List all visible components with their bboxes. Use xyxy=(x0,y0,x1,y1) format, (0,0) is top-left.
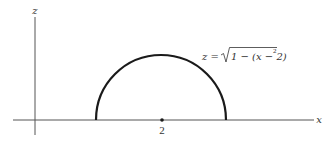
equation-exponent: 2 xyxy=(273,47,277,55)
semicircle-curve xyxy=(96,55,226,120)
semicircle-diagram: 2 x z z = 1 − (x − 2) 2 xyxy=(0,0,331,143)
equation-label: z = 1 − (x − 2) 2 xyxy=(201,47,287,62)
center-point-marker xyxy=(160,118,164,122)
equation-lhs: z = xyxy=(201,51,219,62)
x-axis-label: x xyxy=(316,114,322,125)
point-label: 2 xyxy=(159,124,165,136)
equation-sqrt-body: 1 − (x − 2) xyxy=(231,51,287,62)
z-axis-label: z xyxy=(31,5,38,16)
